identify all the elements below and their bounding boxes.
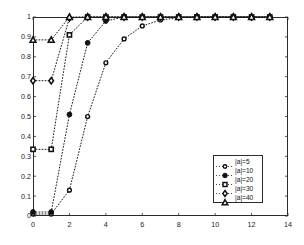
series--a-20 (31, 15, 272, 152)
legend-marker-circle-open-icon (215, 157, 235, 166)
data-point-marker (31, 147, 35, 151)
legend-marker-circle-filled-icon (215, 166, 235, 175)
data-point-marker (104, 61, 108, 65)
legend-item-label: |a|=10 (235, 166, 253, 175)
series-line (33, 17, 270, 81)
data-point-marker (49, 77, 54, 83)
chart-canvas (0, 0, 304, 245)
legend-item--a-30[interactable]: |a|=30 (214, 184, 262, 193)
legend-box[interactable]: |a|=5|a|=10|a|=20|a|=30|a|=40 (213, 155, 263, 203)
data-point-marker (140, 24, 144, 28)
data-point-marker (31, 77, 36, 83)
data-point-marker (86, 115, 90, 119)
legend-item--a-40[interactable]: |a|=40 (214, 193, 262, 202)
data-point-marker (85, 40, 90, 45)
data-point-marker (68, 188, 72, 192)
data-point-marker (30, 37, 36, 43)
legend-marker-glyph (222, 200, 228, 205)
data-point-marker (31, 210, 36, 215)
data-point-marker (67, 33, 71, 37)
legend-item--a-20[interactable]: |a|=20 (214, 175, 262, 184)
data-point-marker (49, 147, 53, 151)
data-point-marker (122, 37, 126, 41)
legend-item--a-10[interactable]: |a|=10 (214, 166, 262, 175)
data-point-marker (66, 14, 72, 20)
chart-figure: 00.10.20.30.40.50.60.70.80.91 0246810121… (0, 0, 304, 245)
data-point-marker (67, 112, 72, 117)
legend-marker-diamond-icon (215, 184, 235, 193)
legend-item-label: |a|=40 (235, 193, 253, 202)
legend-marker-square-icon (215, 175, 235, 184)
legend-item-label: |a|=5 (235, 157, 250, 166)
legend-item-label: |a|=30 (235, 184, 253, 193)
legend-item--a-5[interactable]: |a|=5 (214, 157, 262, 166)
legend-marker-triangle-icon (215, 193, 235, 202)
data-point-marker (49, 210, 54, 215)
legend-item-label: |a|=20 (235, 175, 253, 184)
